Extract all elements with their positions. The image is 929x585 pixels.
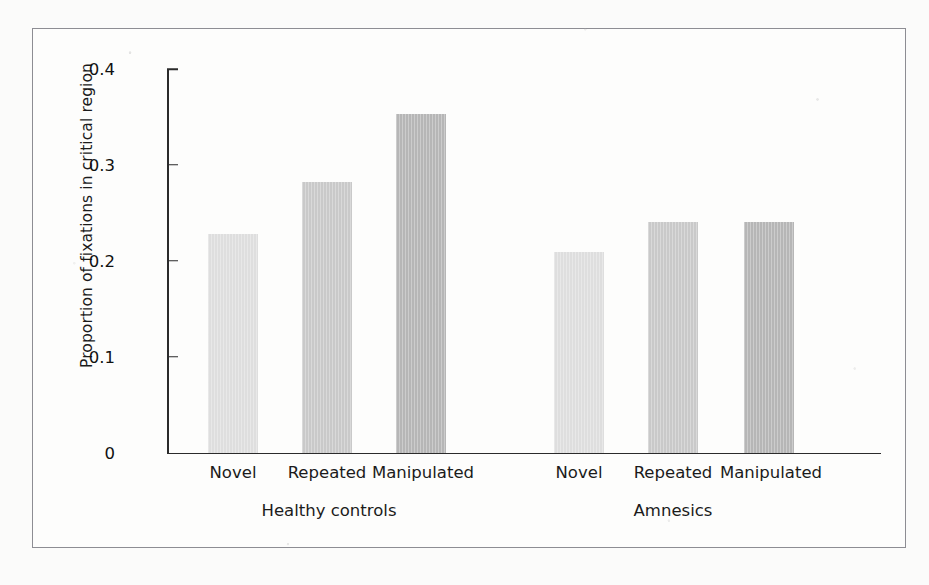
x-category-label-amnesics-repeated: Repeated (634, 463, 713, 482)
y-tick-label-0.3: 0.3 (69, 155, 115, 174)
x-group-label-amnesics: Amnesics (634, 501, 713, 520)
bar-amnesics-repeated (648, 222, 698, 452)
x-category-label-healthy-manipulated: Manipulated (372, 463, 474, 482)
y-tick-label-0.1: 0.1 (69, 347, 115, 366)
y-tick-label-0.4: 0.4 (69, 60, 115, 79)
x-category-label-amnesics-novel: Novel (556, 463, 603, 482)
figure-frame: Proportion of fixations in critical regi… (32, 28, 906, 548)
x-category-label-amnesics-manipulated: Manipulated (720, 463, 822, 482)
y-axis-title: Proportion of fixations in critical regi… (78, 68, 96, 368)
bar-amnesics-manipulated (744, 222, 794, 452)
x-category-label-healthy-novel: Novel (210, 463, 257, 482)
bar-amnesics-novel (554, 252, 604, 452)
x-axis-line (167, 453, 881, 455)
y-tick-label-0: 0 (69, 443, 115, 462)
x-category-label-healthy-repeated: Repeated (288, 463, 367, 482)
y-tick-label-0.2: 0.2 (69, 251, 115, 270)
bars-layer (167, 69, 881, 453)
bar-healthy-controls-novel (208, 234, 258, 453)
bar-healthy-controls-repeated (302, 182, 352, 452)
scanned-page-background: Proportion of fixations in critical regi… (0, 0, 929, 585)
bar-healthy-controls-manipulated (396, 114, 446, 452)
x-group-label-healthy-controls: Healthy controls (262, 501, 397, 520)
